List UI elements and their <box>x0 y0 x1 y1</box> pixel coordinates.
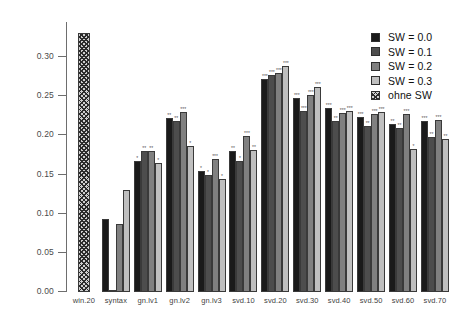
bar-group: ******** <box>228 22 260 292</box>
x-axis-label: svd.50 <box>355 296 387 305</box>
bar <box>116 224 123 292</box>
x-axis-label: svd.20 <box>259 296 291 305</box>
legend-item: SW = 0.3 <box>371 74 471 89</box>
legend-label: ohne SW <box>388 89 432 101</box>
y-axis-tick-label: 0.20 <box>37 129 54 139</box>
bar: ** <box>428 137 435 292</box>
bar-group: ****** <box>132 22 164 292</box>
y-axis-tick: 0.05 <box>58 252 66 253</box>
significance-marker: *** <box>326 103 332 108</box>
legend-item: SW = 0.0 <box>371 30 471 45</box>
significance-marker: ** <box>149 146 153 151</box>
bar: *** <box>307 95 314 292</box>
legend-label: SW = 0.2 <box>388 60 432 72</box>
legend-label: SW = 0.0 <box>388 31 432 43</box>
significance-marker: * <box>413 144 415 149</box>
significance-marker: ** <box>366 121 370 126</box>
y-axis-tick-label: 0.30 <box>37 51 54 61</box>
significance-marker: ** <box>391 119 395 124</box>
bar <box>102 219 109 292</box>
significance-marker: ** <box>252 145 256 150</box>
x-axis-label: win.20 <box>68 296 100 305</box>
bar: ** <box>332 121 339 292</box>
bar: ** <box>141 151 148 292</box>
y-axis-tick-label: 0.05 <box>37 247 54 257</box>
x-axis-label: svd.60 <box>387 296 419 305</box>
legend-swatch-icon <box>371 76 380 85</box>
bar: * <box>205 175 212 292</box>
bar-group: ******** <box>164 22 196 292</box>
bar: * <box>410 149 417 292</box>
significance-marker: *** <box>180 107 186 112</box>
significance-marker: *** <box>283 61 289 66</box>
bar: ** <box>173 121 180 292</box>
x-axis-label: gn.lv3 <box>196 296 228 305</box>
significance-marker: *** <box>422 116 428 121</box>
significance-marker: *** <box>436 115 442 120</box>
significance-marker: *** <box>358 112 364 117</box>
significance-marker: ** <box>398 123 402 128</box>
bar-chart: 0.000.050.100.150.200.250.30 ***********… <box>0 0 474 324</box>
y-axis-tick: 0.10 <box>58 213 66 214</box>
bar: *** <box>314 87 321 292</box>
bar: *** <box>435 120 442 292</box>
y-axis-tick-label: 0.10 <box>37 208 54 218</box>
significance-marker: *** <box>269 70 275 75</box>
bar-group: ****** <box>196 22 228 292</box>
bar: ** <box>389 124 396 292</box>
significance-marker: *** <box>276 68 282 73</box>
bar: *** <box>421 121 428 292</box>
significance-marker: * <box>136 156 138 161</box>
bar <box>123 190 130 292</box>
legend-item: SW = 0.2 <box>371 59 471 74</box>
bar: * <box>187 146 194 292</box>
bar: *** <box>282 66 289 292</box>
bar: *** <box>378 112 385 292</box>
bar: *** <box>243 136 250 292</box>
significance-marker: *** <box>372 109 378 114</box>
bar: *** <box>357 117 364 292</box>
bar: *** <box>268 75 275 292</box>
significance-marker: * <box>207 170 209 175</box>
legend-swatch-icon <box>371 33 380 42</box>
bar: *** <box>180 112 187 292</box>
bar-group: ************ <box>259 22 291 292</box>
legend-item: SW = 0.1 <box>371 45 471 60</box>
legend-label: SW = 0.3 <box>388 75 432 87</box>
bar: ** <box>442 139 449 292</box>
chart-legend: SW = 0.0SW = 0.1SW = 0.2SW = 0.3ohne SW <box>371 30 471 103</box>
significance-marker: * <box>239 156 241 161</box>
bar: * <box>236 161 243 292</box>
legend-swatch-icon <box>371 91 380 100</box>
bar-group: *********** <box>323 22 355 292</box>
significance-marker: ** <box>174 116 178 121</box>
bar: ** <box>396 128 403 292</box>
y-axis-tick: 0.30 <box>58 56 66 57</box>
significance-marker: * <box>221 174 223 179</box>
bar-group: ************ <box>291 22 323 292</box>
bar: *** <box>371 114 378 292</box>
bar: ** <box>364 126 371 292</box>
bar: ** <box>166 118 173 292</box>
y-axis-line <box>66 22 67 292</box>
significance-marker: * <box>200 166 202 171</box>
bar: *** <box>293 98 300 292</box>
y-axis-tick-label: 0.25 <box>37 90 54 100</box>
significance-marker: ** <box>334 116 338 121</box>
y-axis-tick-label: 0.15 <box>37 169 54 179</box>
x-axis-label: gn.lv1 <box>132 296 164 305</box>
bar <box>109 290 116 292</box>
y-axis-tick: 0.25 <box>58 95 66 96</box>
x-axis-label: svd.70 <box>419 296 451 305</box>
bar: * <box>134 161 141 292</box>
significance-marker: ** <box>142 146 146 151</box>
bar-group <box>100 22 132 292</box>
significance-marker: ** <box>443 134 447 139</box>
x-axis-labels: win.20syntaxgn.lv1gn.lv2gn.lv3svd.10svd.… <box>68 296 451 305</box>
significance-marker: *** <box>244 131 250 136</box>
bar: *** <box>346 111 353 292</box>
legend-item: ohne SW <box>371 88 471 103</box>
bar: * <box>219 179 226 292</box>
bar: *** <box>275 73 282 292</box>
bar: *** <box>261 79 268 292</box>
